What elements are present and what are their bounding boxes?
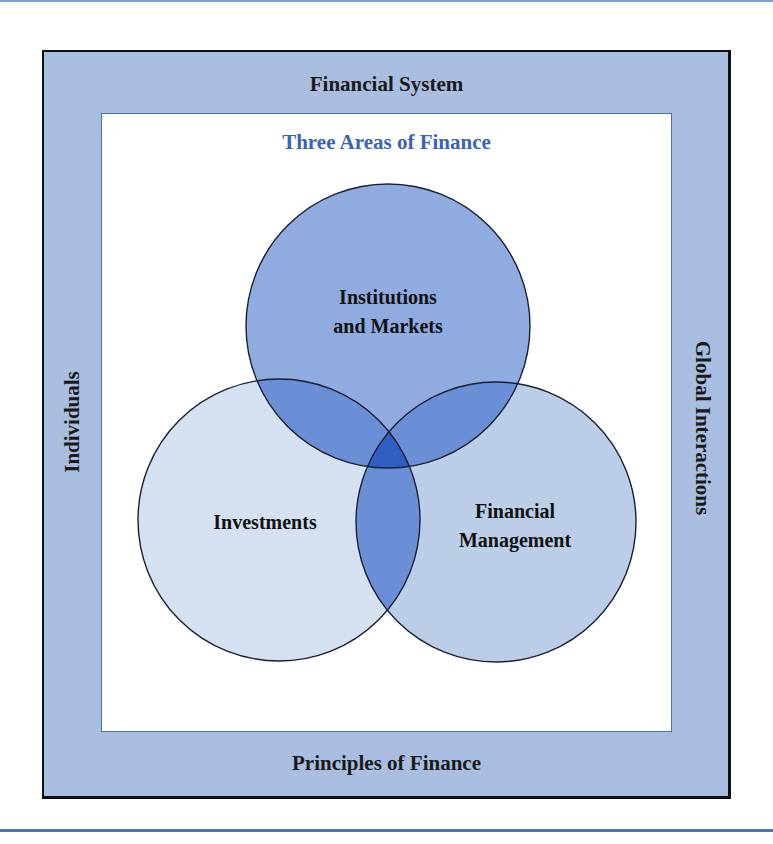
financial-management-label: Financial Management xyxy=(430,497,600,555)
investments-label: Investments xyxy=(190,508,340,537)
investments-line1: Investments xyxy=(190,508,340,537)
bottom-rule xyxy=(0,829,773,832)
institutions-line2: and Markets xyxy=(300,312,476,341)
financial-line2: Management xyxy=(430,526,600,555)
venn-diagram xyxy=(0,0,773,844)
institutions-line1: Institutions xyxy=(300,283,476,312)
financial-line1: Financial xyxy=(430,497,600,526)
institutions-markets-label: Institutions and Markets xyxy=(300,283,476,341)
